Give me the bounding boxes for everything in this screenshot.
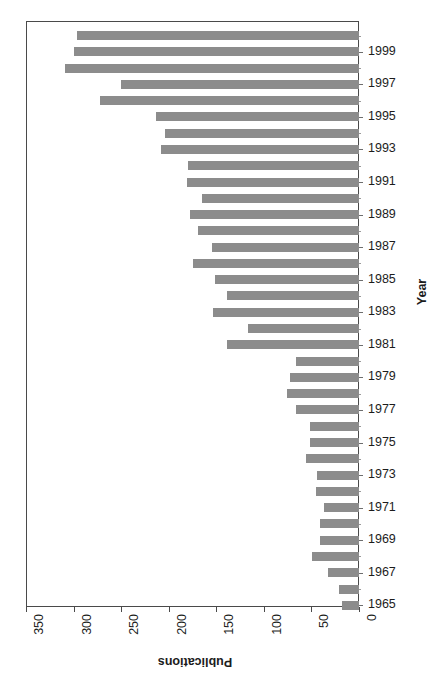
category-axis-tick-label: 1969: [368, 532, 396, 546]
value-axis-tick-label: 250: [127, 614, 141, 660]
category-axis-tick: [359, 475, 363, 476]
category-axis-title: Year: [415, 279, 429, 305]
category-axis-tick-minor: [359, 133, 361, 134]
value-axis-tick-label: 350: [32, 614, 46, 660]
category-axis-tick-minor: [359, 361, 361, 362]
bar: [198, 226, 359, 235]
category-axis-tick-minor: [359, 426, 361, 427]
bar: [65, 64, 359, 73]
category-axis-tick-minor: [359, 491, 361, 492]
category-axis: 1999199719951993199119891987198519831981…: [359, 21, 433, 621]
bar: [227, 340, 359, 349]
bar: [161, 145, 359, 154]
bar: [100, 96, 359, 105]
category-axis-tick: [359, 215, 363, 216]
bar: [212, 243, 359, 252]
bar: [316, 487, 359, 496]
value-axis-tick-label: 50: [317, 614, 331, 660]
category-axis-tick-minor: [359, 68, 361, 69]
bar: [320, 519, 359, 528]
category-axis-tick: [359, 84, 363, 85]
bar: [202, 194, 359, 203]
category-axis-tick-minor: [359, 263, 361, 264]
value-axis-tick: [216, 607, 217, 612]
category-axis-tick-minor: [359, 231, 361, 232]
category-axis-tick-label: 1965: [368, 597, 396, 611]
value-axis-tick-label: 100: [270, 614, 284, 660]
bar: [290, 373, 359, 382]
category-axis-tick-minor: [359, 166, 361, 167]
category-axis-tick: [359, 345, 363, 346]
category-axis-tick: [359, 52, 363, 53]
category-axis-tick-label: 1967: [368, 565, 396, 579]
category-axis-tick-minor: [359, 524, 361, 525]
category-axis-tick-label: 1975: [368, 435, 396, 449]
category-axis-tick-label: 1977: [368, 402, 396, 416]
category-axis-tick: [359, 377, 363, 378]
category-axis-tick: [359, 605, 363, 606]
category-axis-tick-minor: [359, 198, 361, 199]
category-axis-tick-minor: [359, 101, 361, 102]
category-axis-tick-label: 1985: [368, 272, 396, 286]
category-axis-tick-label: 1973: [368, 467, 396, 481]
value-axis-tick: [26, 607, 27, 612]
category-axis-tick: [359, 312, 363, 313]
bar: [193, 259, 360, 268]
category-axis-tick: [359, 443, 363, 444]
bar: [310, 422, 359, 431]
category-axis-tick: [359, 149, 363, 150]
category-axis-tick-label: 1971: [368, 500, 396, 514]
category-axis-tick-minor: [359, 36, 361, 37]
bar: [215, 275, 359, 284]
value-axis-tick: [121, 607, 122, 612]
bar: [339, 585, 359, 594]
bar: [187, 178, 359, 187]
bar: [287, 389, 359, 398]
category-axis-tick-label: 1991: [368, 174, 396, 188]
bar: [317, 471, 359, 480]
publications-by-year-bar-chart: 350300250200150100500 Publications 19991…: [0, 0, 433, 695]
category-axis-tick-label: 1979: [368, 369, 396, 383]
bar: [156, 112, 359, 121]
bar: [248, 324, 359, 333]
bar: [312, 552, 359, 561]
category-axis-tick-label: 1981: [368, 337, 396, 351]
bar: [296, 357, 359, 366]
bar: [328, 568, 359, 577]
category-axis-tick: [359, 117, 363, 118]
bar: [324, 503, 359, 512]
value-axis-tick: [74, 607, 75, 612]
bar: [296, 405, 359, 414]
value-axis-tick: [311, 607, 312, 612]
bar: [121, 80, 359, 89]
value-axis-title: Publications: [120, 655, 270, 669]
value-axis-tick-label: 200: [175, 614, 189, 660]
category-axis-tick-minor: [359, 556, 361, 557]
bars-layer: [26, 21, 359, 607]
bar: [74, 47, 359, 56]
category-axis-tick-minor: [359, 589, 361, 590]
value-axis-tick: [169, 607, 170, 612]
category-axis-tick: [359, 182, 363, 183]
category-axis-tick-label: 1987: [368, 239, 396, 253]
category-axis-tick-label: 1997: [368, 76, 396, 90]
bar: [188, 161, 359, 170]
bar: [227, 291, 359, 300]
category-axis-tick-minor: [359, 459, 361, 460]
value-axis-tick-label: 300: [80, 614, 94, 660]
value-axis-tick: [264, 607, 265, 612]
category-axis-tick: [359, 410, 363, 411]
category-axis-tick-minor: [359, 296, 361, 297]
category-axis-tick-label: 1995: [368, 109, 396, 123]
category-axis-tick-label: 1989: [368, 207, 396, 221]
category-axis-tick-label: 1993: [368, 141, 396, 155]
value-axis-tick-label: 150: [222, 614, 236, 660]
category-axis-tick: [359, 540, 363, 541]
bar: [320, 536, 359, 545]
category-axis-tick: [359, 508, 363, 509]
bar: [306, 454, 359, 463]
category-axis-tick-label: 1999: [368, 44, 396, 58]
bar: [165, 129, 359, 138]
bar: [310, 438, 359, 447]
category-axis-tick: [359, 247, 363, 248]
